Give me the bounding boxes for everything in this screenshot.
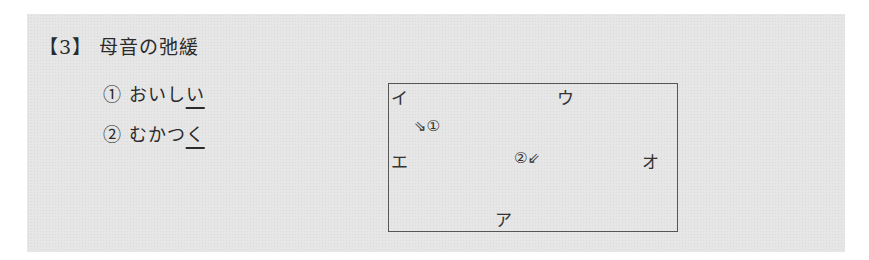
item-word: むかつ <box>129 124 186 145</box>
section-heading: 【3】 母音の弛緩 <box>39 32 199 59</box>
example-item-1: ① おいしい <box>103 80 205 106</box>
vowel-a: ア <box>495 206 512 231</box>
shift-arrow-1: ⇘① <box>414 117 440 135</box>
item-underlined-kana: く <box>186 124 205 145</box>
item-underlined-kana: い <box>186 84 205 105</box>
vowel-diagram: イ ウ ⇘① エ ②⇙ オ ア <box>388 83 678 232</box>
content-panel: 【3】 母音の弛緩 ① おいしい ② むかつく イ ウ ⇘① エ ②⇙ オ ア <box>27 14 845 252</box>
section-title: 母音の弛緩 <box>99 36 199 58</box>
vowel-i: イ <box>391 84 408 109</box>
bracket-close: 】 <box>72 36 92 58</box>
bracket-open: 【 <box>39 36 59 58</box>
vowel-u: ウ <box>557 84 574 109</box>
vowel-e: エ <box>391 148 408 173</box>
item-marker: ① <box>103 84 122 105</box>
vowel-o: オ <box>642 148 659 173</box>
section-number: 3 <box>59 36 72 58</box>
item-marker: ② <box>103 124 122 145</box>
shift-arrow-2: ②⇙ <box>514 149 540 167</box>
example-item-2: ② むかつく <box>103 120 205 146</box>
item-word: おいし <box>129 84 186 105</box>
